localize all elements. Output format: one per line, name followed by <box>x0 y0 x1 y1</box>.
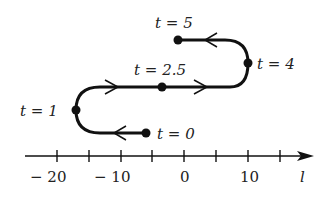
tick-label-neg20: − 20 <box>30 168 66 186</box>
tick-label-0: 0 <box>180 168 190 186</box>
label-t2-5: t = 2.5 <box>134 61 186 79</box>
point-t5 <box>174 36 183 45</box>
point-t2-5 <box>158 83 167 92</box>
point-t1 <box>72 106 81 115</box>
point-t4 <box>244 59 253 68</box>
label-t5: t = 5 <box>155 14 193 32</box>
point-t0 <box>142 129 151 138</box>
label-t4: t = 4 <box>257 55 295 73</box>
axis-label: l <box>300 168 305 186</box>
motion-diagram: t = 0 t = 1 t = 2.5 t = 4 t = 5 − 20 − 1… <box>0 0 332 198</box>
tick-label-neg10: − 10 <box>94 168 130 186</box>
label-t0: t = 0 <box>157 125 195 143</box>
label-t1: t = 1 <box>20 102 58 120</box>
tick-label-10: 10 <box>240 168 259 186</box>
